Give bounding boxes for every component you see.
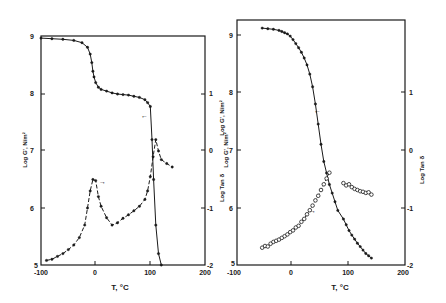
right-rtick-m2: -2 <box>407 262 413 269</box>
left-ytick-7: 7 <box>30 147 34 154</box>
left-ytick-8: 8 <box>30 90 34 97</box>
data-point <box>51 258 53 260</box>
data-point <box>111 92 113 94</box>
data-point <box>97 195 99 197</box>
left-y2-axis-label: Log Tan δ <box>219 174 225 203</box>
data-point <box>138 96 140 98</box>
data-point <box>111 224 113 226</box>
data-point <box>314 199 318 203</box>
data-point <box>351 234 353 236</box>
right-rtick-0: 0 <box>409 147 413 154</box>
data-point <box>311 86 313 88</box>
data-point <box>328 171 332 175</box>
left-x-axis-label: T, °C <box>111 283 129 292</box>
data-point <box>281 30 283 32</box>
dma-figure: 9 8 7 6 5 1 0 -1 -2 -100 0 100 200 T, °C… <box>0 0 446 303</box>
data-point <box>149 105 151 107</box>
right-y2-axis-label: Log Tan δ <box>419 156 425 185</box>
data-point <box>146 101 148 103</box>
right-series-group <box>260 27 373 259</box>
right-arrow-tan: → <box>309 207 316 214</box>
data-point <box>138 205 140 207</box>
data-point <box>289 35 291 37</box>
data-point <box>292 38 294 40</box>
data-point <box>133 210 135 212</box>
right-xtick-m100: -100 <box>227 269 241 276</box>
data-point <box>151 138 153 140</box>
data-point <box>306 64 308 66</box>
data-point <box>62 38 64 40</box>
data-point <box>337 209 339 211</box>
data-point <box>348 229 350 231</box>
data-point <box>322 183 326 187</box>
right-y-axis-label: Log G', N/m² <box>223 132 229 167</box>
data-point <box>133 95 135 97</box>
series-line <box>262 28 371 258</box>
data-point <box>127 94 129 96</box>
data-point <box>278 29 280 31</box>
data-point <box>116 222 118 224</box>
data-point <box>84 224 86 226</box>
data-point <box>116 93 118 95</box>
left-xtick-200: 200 <box>199 269 211 276</box>
data-point <box>171 166 173 168</box>
data-point <box>320 143 322 145</box>
data-point <box>97 86 99 88</box>
data-point <box>370 193 374 197</box>
data-point <box>157 252 159 254</box>
data-point <box>272 28 274 30</box>
data-point <box>331 192 333 194</box>
data-point <box>325 177 329 181</box>
data-point <box>155 138 157 140</box>
data-point <box>78 236 80 238</box>
data-point <box>92 178 94 180</box>
left-rtick-m2: -2 <box>207 262 213 269</box>
data-point <box>317 123 319 125</box>
data-point <box>95 81 97 83</box>
right-xtick-200: 200 <box>397 269 409 276</box>
data-point <box>56 255 58 257</box>
data-point <box>95 179 97 181</box>
data-point <box>105 90 107 92</box>
data-point <box>105 217 107 219</box>
data-point <box>283 32 285 34</box>
data-point <box>319 188 323 192</box>
right-y-ticks-right: 1 0 -1 -2 <box>401 89 413 269</box>
data-point <box>144 99 146 101</box>
left-arrow-tan: → <box>99 178 106 185</box>
data-point <box>100 88 102 90</box>
data-point <box>345 224 347 226</box>
data-point <box>261 27 263 29</box>
data-point <box>314 103 316 105</box>
data-point <box>122 93 124 95</box>
data-point <box>92 70 94 72</box>
data-point <box>353 238 355 240</box>
data-point <box>356 242 358 244</box>
left-y-axis-label: Log G', N/m² <box>22 132 28 167</box>
data-point <box>127 214 129 216</box>
data-point <box>300 220 304 224</box>
right-x-axis-label: T, °C <box>331 283 349 292</box>
series-line <box>41 38 161 265</box>
data-point <box>81 42 83 44</box>
left-ytick-5: 5 <box>34 262 38 269</box>
right-ytick-9: 9 <box>229 32 233 39</box>
right-rtick-m1: -1 <box>407 205 413 212</box>
data-point <box>91 61 93 63</box>
data-point <box>297 47 299 49</box>
left-xtick-0: 0 <box>93 269 97 276</box>
left-rtick-m1: -1 <box>207 205 213 212</box>
left-rtick-1: 1 <box>209 90 213 97</box>
data-point <box>328 183 330 185</box>
data-point <box>146 190 148 192</box>
left-series-group <box>40 37 174 266</box>
right-ytick-6: 6 <box>229 205 233 212</box>
data-point <box>359 245 361 247</box>
data-point <box>342 218 344 220</box>
data-point <box>40 37 42 39</box>
data-point <box>122 217 124 219</box>
data-point <box>166 162 168 164</box>
data-point <box>303 57 305 59</box>
right-arrow-g: ← <box>314 107 321 114</box>
data-point <box>334 201 336 203</box>
